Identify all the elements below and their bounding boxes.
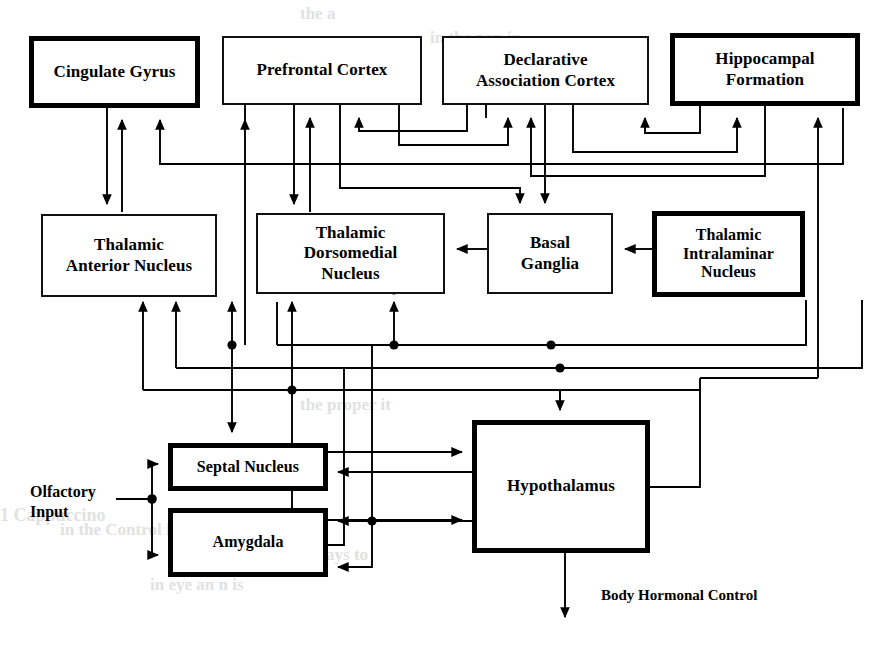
label-body_hormonal_control: Body Hormonal Control — [601, 586, 757, 604]
edge-hippocampus-internal-loop — [645, 106, 700, 133]
edge-hypothalamus-out-right — [650, 390, 700, 487]
node-label-prefrontal_cortex: Prefrontal Cortex — [253, 60, 392, 80]
node-cingulate_gyrus: Cingulate Gyrus — [29, 36, 200, 108]
node-label-hypothalamus: Hypothalamus — [503, 476, 619, 496]
node-label-septal_nucleus: Septal Nucleus — [193, 458, 303, 477]
edge-hippocampus-to-declarative — [531, 106, 765, 176]
node-prefrontal_cortex: Prefrontal Cortex — [222, 36, 422, 105]
edge-olfactory-to-septal — [152, 464, 158, 499]
edge-declarative-to-hippocampus — [573, 105, 737, 152]
edge-prefrontal-to-declarative — [399, 105, 508, 145]
node-hypothalamus: Hypothalamus — [472, 420, 650, 553]
junction-dot — [389, 340, 398, 349]
node-hippocampal_formation: HippocampalFormation — [670, 33, 860, 106]
node-label-cingulate_gyrus: Cingulate Gyrus — [50, 62, 180, 82]
node-label-thalamic_dorsomedial: ThalamicDorsomedialNucleus — [300, 223, 402, 283]
edge-amygdala-out-lower — [328, 369, 344, 545]
edge-prefrontal-to-basal-ganglia — [340, 105, 520, 203]
edge-bus-c-horizontal — [176, 300, 862, 368]
node-thalamic_anterior: ThalamicAnterior Nucleus — [41, 214, 217, 297]
node-label-basal_ganglia: BasalGanglia — [517, 233, 583, 273]
junction-dot — [147, 494, 157, 504]
junction-dot — [555, 363, 564, 372]
edge-declarative-to-prefrontal — [359, 105, 467, 131]
label-olfactory_input: OlfactoryInput — [30, 482, 96, 521]
node-thalamic_intralaminar: ThalamicIntralaminarNucleus — [652, 211, 805, 297]
node-amygdala: Amygdala — [168, 508, 328, 577]
node-septal_nucleus: Septal Nucleus — [168, 443, 328, 491]
junction-dot — [367, 516, 376, 525]
node-thalamic_dorsomedial: ThalamicDorsomedialNucleus — [256, 213, 445, 294]
node-label-declarative_cortex: DeclarativeAssociation Cortex — [472, 50, 619, 90]
edge-hippocampus-to-cingulate — [160, 108, 843, 164]
limbic-system-diagram: the ain the non inthe proper it1 Cappucc… — [0, 0, 889, 648]
node-label-thalamic_anterior: ThalamicAnterior Nucleus — [62, 235, 196, 275]
edge-bus-b-horizontal — [143, 378, 700, 390]
junction-dot — [227, 340, 236, 349]
junction-dot — [287, 385, 296, 394]
node-label-amygdala: Amygdala — [208, 533, 287, 552]
node-basal_ganglia: BasalGanglia — [487, 213, 613, 294]
node-label-hippocampal_formation: HippocampalFormation — [711, 49, 818, 89]
junction-dot — [546, 340, 555, 349]
node-label-thalamic_intralaminar: ThalamicIntralaminarNucleus — [679, 226, 778, 283]
node-declarative_cortex: DeclarativeAssociation Cortex — [442, 36, 649, 105]
edge-olfactory-to-amygdala — [152, 499, 158, 555]
edge-bus-d-horizontal — [277, 300, 806, 345]
